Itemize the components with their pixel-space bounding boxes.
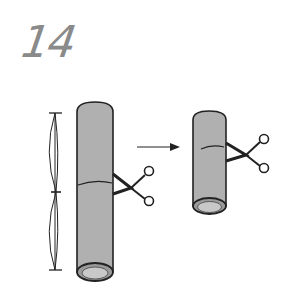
tube-long-icon	[77, 102, 113, 281]
tube-short-icon	[193, 111, 226, 214]
scissors-icon	[226, 135, 269, 173]
scissors-icon	[113, 167, 154, 206]
illustration	[0, 0, 287, 293]
arrow-right-icon	[137, 143, 180, 151]
measure-bracket-icon	[49, 113, 62, 270]
